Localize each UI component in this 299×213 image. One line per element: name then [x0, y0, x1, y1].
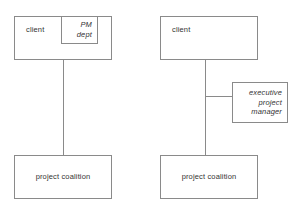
right-project-coalition-label: project coalition	[182, 172, 237, 182]
right-executive-project-manager-box: executive project manager	[232, 82, 288, 123]
left-client-to-coalition-connector	[63, 60, 64, 155]
left-project-coalition-box: project coalition	[14, 155, 112, 199]
right-client-label: client	[161, 17, 190, 35]
left-pm-dept-box: PM dept	[61, 16, 98, 44]
right-client-to-coalition-connector	[205, 60, 206, 155]
left-pm-dept-label: PM dept	[77, 20, 97, 40]
right-client-box: client	[160, 16, 258, 60]
right-project-coalition-box: project coalition	[160, 155, 258, 199]
right-executive-project-manager-label: executive project manager	[249, 88, 287, 118]
left-project-coalition-label: project coalition	[36, 172, 91, 182]
left-client-label: client	[15, 17, 44, 35]
right-executive-project-manager-branch-connector	[205, 96, 233, 97]
diagram-canvas: client PM dept project coalition client …	[0, 0, 299, 213]
